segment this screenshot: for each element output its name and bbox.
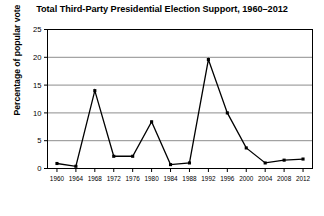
data-point-marker [131, 155, 134, 158]
y-axis-tick-label: 20 [33, 53, 41, 62]
data-point-marker [245, 146, 248, 149]
x-axis-tick-label: 1984 [163, 175, 178, 182]
x-axis-tick-label: 1992 [201, 175, 216, 182]
data-point-marker [93, 89, 96, 92]
x-axis-tick-label: 2000 [239, 175, 254, 182]
x-axis-tick-label: 1960 [50, 175, 65, 182]
data-point-marker [55, 162, 58, 165]
data-point-marker [188, 161, 191, 164]
x-axis-tick-label: 2008 [277, 175, 292, 182]
y-axis-tick-label: 0 [37, 164, 41, 173]
y-axis-tick-label: 15 [33, 81, 41, 90]
y-axis-tick-label: 10 [33, 109, 41, 118]
data-point-marker [264, 161, 267, 164]
plot-area: 0510152025 19601964196819721976198019841… [0, 0, 324, 216]
data-point-marker [150, 120, 153, 123]
data-point-marker [226, 111, 229, 114]
x-axis-tick-label: 1964 [69, 175, 84, 182]
y-axis-tick-label: 25 [33, 25, 41, 34]
x-axis-tick-label: 2012 [296, 175, 311, 182]
x-axis-tick-label: 1976 [126, 175, 141, 182]
data-point-marker [74, 165, 77, 168]
data-point-marker [283, 159, 286, 162]
data-point-marker [207, 58, 210, 61]
x-axis-ticks-group: 1960196419681972197619801984198819921996… [50, 169, 311, 182]
gridlines-group [48, 57, 313, 140]
x-axis-tick-label: 1968 [88, 175, 103, 182]
x-axis-tick-label: 2004 [258, 175, 273, 182]
chart-figure: Total Third-Party Presidential Election … [0, 0, 324, 216]
y-axis-tick-label: 5 [37, 136, 41, 145]
data-point-marker [169, 163, 172, 166]
y-axis-ticks-group: 0510152025 [33, 25, 47, 173]
x-axis-tick-label: 1972 [107, 175, 122, 182]
plot-border [48, 30, 313, 169]
x-axis-tick-label: 1980 [144, 175, 159, 182]
data-point-marker [112, 155, 115, 158]
x-axis-tick-label: 1996 [220, 175, 235, 182]
x-axis-tick-label: 1988 [182, 175, 197, 182]
data-point-marker [301, 157, 304, 160]
